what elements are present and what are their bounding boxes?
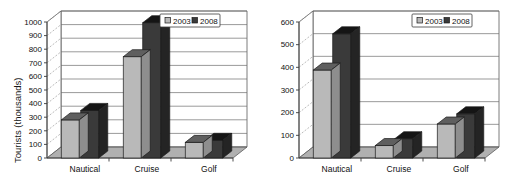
x-category-label: Cruise: [387, 164, 412, 174]
tourists-y-axis-title: Tourists (thousands): [12, 77, 23, 163]
y-tick-label: 700: [29, 59, 43, 68]
tourists-chart-plot: 01002003004005006007008009001000Nautical…: [24, 11, 247, 174]
y-tick-label: 800: [29, 45, 43, 54]
y-tick-label: 300: [281, 86, 295, 95]
y-tick-label: 400: [281, 63, 295, 72]
y-tick-label: 400: [29, 99, 43, 108]
x-category-label: Nautical: [70, 164, 101, 174]
legend-label-2008: 2008: [452, 17, 470, 26]
y-tick-label: 200: [29, 127, 43, 136]
income-chart: 0100200300400500600NauticalCruiseGolf200…: [252, 0, 504, 191]
bar-2003: [123, 50, 150, 158]
bar-front-face: [185, 142, 203, 158]
y-tick-label: 600: [281, 18, 295, 27]
bar-front-face: [61, 120, 79, 158]
bar-front-face: [437, 124, 455, 158]
legend-swatch-2003: [417, 18, 423, 24]
bar-side-face: [455, 117, 464, 158]
y-tick-label: 0: [290, 154, 295, 163]
y-tick-label: 200: [281, 108, 295, 117]
legend-label-2003: 2003: [173, 17, 191, 26]
legend-label-2008: 2008: [200, 17, 218, 26]
bar-side-face: [331, 63, 340, 158]
bar-2003: [437, 117, 464, 158]
bar-side-face: [475, 107, 484, 158]
bar-side-face: [141, 50, 150, 158]
y-tick-label: 300: [29, 113, 43, 122]
legend-swatch-2003: [165, 18, 171, 24]
bar-front-face: [375, 146, 393, 158]
x-category-label: Nautical: [322, 164, 353, 174]
bar-2003: [61, 113, 88, 158]
bar-side-face: [351, 27, 360, 158]
x-category-label: Golf: [453, 164, 469, 174]
y-tick-label: 0: [38, 154, 43, 163]
y-tick-label: 100: [29, 140, 43, 149]
y-tick-label: 600: [29, 72, 43, 81]
legend-swatch-2008: [192, 18, 198, 24]
bar-front-face: [123, 57, 141, 158]
bar-2003: [313, 63, 340, 158]
bar-front-face: [313, 70, 331, 158]
figure-sheet: 01002003004005006007008009001000Nautical…: [0, 0, 505, 191]
y-tick-label: 100: [281, 131, 295, 140]
legend-label-2003: 2003: [425, 17, 443, 26]
y-tick-label: 1000: [24, 18, 42, 27]
tourists-chart-canvas: 01002003004005006007008009001000Nautical…: [0, 0, 252, 191]
tourists-chart: 01002003004005006007008009001000Nautical…: [0, 0, 252, 191]
x-category-label: Golf: [201, 164, 217, 174]
income-chart-canvas: 0100200300400500600NauticalCruiseGolf200…: [252, 0, 504, 191]
x-category-label: Cruise: [135, 164, 160, 174]
y-tick-label: 500: [281, 40, 295, 49]
income-chart-plot: 0100200300400500600NauticalCruiseGolf200…: [281, 11, 499, 174]
y-tick-label: 500: [29, 86, 43, 95]
bar-side-face: [79, 113, 88, 158]
legend-swatch-2008: [444, 18, 450, 24]
y-tick-label: 900: [29, 31, 43, 40]
bar-side-face: [99, 103, 108, 158]
bar-side-face: [161, 16, 170, 158]
